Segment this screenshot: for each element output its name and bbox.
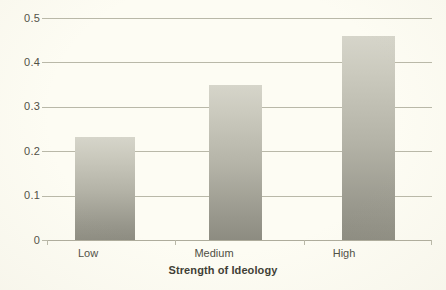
y-tick-label-0.5: 0.5 — [0, 13, 40, 24]
x-tick-label-low: Low — [48, 248, 128, 259]
y-tick-label-0.2: 0.2 — [0, 146, 40, 157]
x-tick-label-high: High — [304, 248, 384, 259]
x-tick-mark — [304, 240, 305, 245]
y-tick-mark — [42, 62, 47, 63]
x-tick-mark — [175, 240, 176, 245]
y-tick-label-0.1: 0.1 — [0, 190, 40, 201]
x-axis-title: Strength of Ideology — [0, 264, 446, 276]
y-tick-mark — [42, 107, 47, 108]
axis-baseline — [47, 240, 432, 241]
y-tick-label-0: 0 — [0, 235, 40, 246]
bar-high — [342, 36, 395, 240]
y-tick-label-0.4: 0.4 — [0, 57, 40, 68]
x-tick-mark — [431, 240, 432, 245]
bar-medium — [209, 85, 262, 240]
y-tick-mark — [42, 151, 47, 152]
bar-low — [75, 137, 135, 241]
x-tick-label-medium: Medium — [170, 248, 258, 259]
y-tick-mark — [42, 18, 47, 19]
y-tick-mark — [42, 196, 47, 197]
plot-area — [47, 18, 432, 240]
y-tick-label-0.3: 0.3 — [0, 101, 40, 112]
x-tick-mark — [47, 240, 48, 245]
bar-chart: 0.5 0.4 0.3 0.2 0.1 0 Low Medium High St… — [0, 0, 446, 290]
gridline-0.5 — [47, 18, 432, 19]
